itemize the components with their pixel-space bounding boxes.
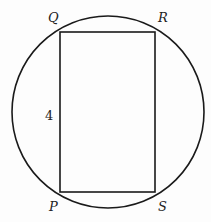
rectangle-pqrs (60, 32, 155, 192)
vertex-label-p: P (49, 200, 58, 213)
figure (0, 0, 211, 222)
vertex-label-r: R (158, 11, 168, 24)
circumscribed-circle (12, 16, 204, 208)
diagram-canvas: Q R S P 4 (0, 0, 211, 222)
vertex-label-s: S (158, 200, 167, 213)
side-length-label: 4 (45, 109, 53, 122)
vertex-label-q: Q (48, 11, 59, 24)
